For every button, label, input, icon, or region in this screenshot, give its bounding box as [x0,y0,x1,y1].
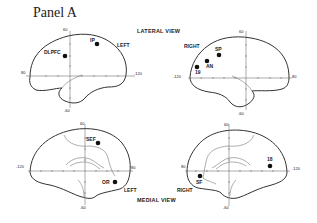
tick-left: -120 [16,164,25,169]
tick-right: -120 [134,71,143,76]
label-or: OR [102,179,110,185]
point-sp [217,53,222,58]
point-sf [198,174,203,179]
point-sef [96,141,101,146]
brain-outline [190,37,289,107]
medial-right-brain: -60 60 -60 80 -120 SF 18 RIGHT [177,111,301,210]
tick-top: 60 [80,121,85,126]
brain-figure: Panel A 60 -60 80 -120 DLPFC IP [0,0,317,223]
tick-left: -120 [173,74,182,79]
brainstem-outline [78,180,84,197]
hemisphere-label: LEFT [117,42,130,48]
hemisphere-label: LEFT [124,187,137,193]
brain-outline [30,34,127,103]
axis-ticks [201,45,281,100]
tick-left: 80 [21,70,26,75]
label-19: 19 [195,69,201,75]
brain-outline [30,129,130,199]
tick-bottom: -60 [64,108,71,113]
hemisphere-label: RIGHT [177,187,193,193]
tick-right: -120 [292,166,301,171]
tick-left: 80 [181,164,186,169]
hemisphere-label: RIGHT [184,43,200,49]
tick-bottom: -60 [80,205,87,210]
point-dlpfc [63,54,68,59]
tick-right: 80 [292,74,297,79]
brainstem-outline [230,180,236,196]
medial-view-label: MEDIAL VIEW [137,197,176,203]
tick-bottom-lateral: -60 [238,111,245,116]
medial-left-brain: 60 -60 -120 80 SEF OR LEFT [16,121,137,210]
label-dlpfc: DLPFC [44,49,61,55]
lateral-view-label: LATERAL VIEW [137,28,181,34]
point-ip [95,42,100,47]
label-18: 18 [267,156,273,162]
point-18 [268,164,273,169]
label-sp: SP [215,46,222,52]
label-ip: IP [90,37,95,43]
label-sf: SF [196,179,202,185]
label-sef: SEF [86,136,96,142]
corpus-callosum-outline [212,158,250,169]
tick-top: 60 [63,27,68,32]
tick-top: 60 [224,122,229,127]
temporal-lobe-outline [62,75,82,88]
lateral-right-brain: 60 -120 80 RIGHT SP AN 19 [173,29,297,110]
tick-right: 80 [131,165,136,170]
cingulate-outline [203,135,254,184]
tick-bottom: -60 [223,205,230,210]
lateral-left-brain: 60 -60 80 -120 DLPFC IP LEFT [21,27,143,113]
brain-outline [187,130,287,198]
point-or [113,180,118,185]
label-an: AN [206,63,214,69]
tick-top: 60 [239,29,244,34]
